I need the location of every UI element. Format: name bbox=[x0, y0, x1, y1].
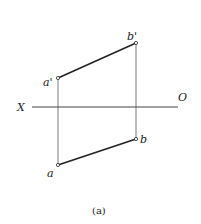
axis-label-x: X bbox=[16, 101, 26, 114]
point-b bbox=[134, 137, 137, 140]
point-a bbox=[56, 163, 59, 166]
label-b: b bbox=[140, 133, 147, 146]
axis-label-o: O bbox=[178, 91, 187, 104]
front-view-line-ab-prime bbox=[58, 43, 136, 78]
point-a-prime bbox=[56, 76, 59, 79]
label-b-prime: b' bbox=[127, 30, 137, 43]
projection-diagram: X O a' b' a b (a) bbox=[0, 0, 201, 224]
label-a-prime: a' bbox=[43, 76, 53, 89]
figure-caption: (a) bbox=[92, 205, 106, 216]
label-a: a bbox=[47, 167, 54, 180]
top-view-line-ab bbox=[58, 139, 136, 165]
